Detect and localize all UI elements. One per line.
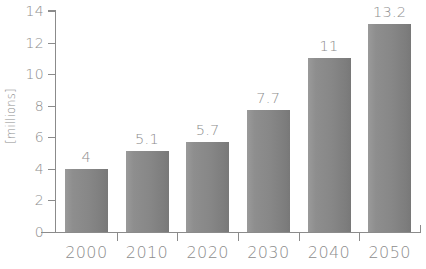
bar-value-label: 4 [56, 149, 116, 165]
bar [247, 110, 290, 232]
x-axis-tick [359, 233, 360, 241]
y-axis-tick-label: 14 [0, 3, 44, 19]
bar [368, 24, 411, 232]
y-axis-tick [48, 200, 56, 201]
y-axis-tick [48, 11, 56, 12]
bar [186, 142, 229, 232]
bar-value-label: 11 [299, 38, 359, 54]
y-axis-tick [48, 232, 56, 233]
y-axis-tick-label: 12 [0, 35, 44, 51]
x-axis-category-label: 2020 [174, 243, 242, 262]
x-axis-category-label: 2000 [52, 243, 120, 262]
y-axis-tick [48, 169, 56, 170]
x-axis-tick [177, 233, 178, 241]
y-axis-tick [48, 74, 56, 75]
bar-value-label: 5.1 [117, 131, 177, 147]
y-axis-tick [48, 137, 56, 138]
bar-value-label: 5.7 [178, 122, 238, 138]
bar [126, 151, 169, 232]
bar [65, 169, 108, 232]
y-axis-tick-label: 10 [0, 66, 44, 82]
bar [308, 58, 351, 232]
x-axis-tick [117, 233, 118, 241]
x-axis-category-label: 2010 [113, 243, 181, 262]
bar-value-label: 13.2 [360, 4, 420, 20]
y-axis-tick-label: 2 [0, 192, 44, 208]
x-axis-right-cap-tick [420, 225, 421, 233]
y-axis-tick-label: 4 [0, 161, 44, 177]
y-axis-tick [48, 106, 56, 107]
y-axis-tick [48, 43, 56, 44]
x-axis-tick [238, 233, 239, 241]
x-axis-line [41, 232, 421, 233]
x-axis-category-label: 2030 [234, 243, 302, 262]
x-axis-category-label: 2050 [356, 243, 424, 262]
y-axis-tick-label: 8 [0, 98, 44, 114]
bar-value-label: 7.7 [238, 90, 298, 106]
bar-chart: [millions] 02468101214 45.15.77.71113.2 … [0, 0, 426, 269]
x-axis-category-label: 2040 [295, 243, 363, 262]
y-axis-tick-label: 6 [0, 129, 44, 145]
x-axis-tick [299, 233, 300, 241]
y-axis-tick-label: 0 [0, 224, 44, 240]
